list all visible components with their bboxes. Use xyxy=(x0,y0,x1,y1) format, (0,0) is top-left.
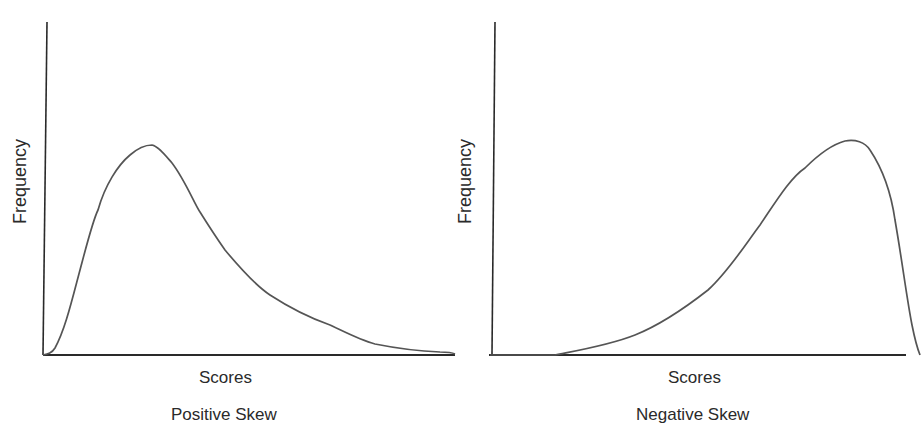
y-axis-label: Frequency xyxy=(10,139,31,224)
chart-caption: Negative Skew xyxy=(636,405,749,425)
y-axis xyxy=(492,22,495,355)
x-axis-label: Scores xyxy=(199,368,252,388)
chart-caption: Positive Skew xyxy=(171,405,277,425)
x-axis-label: Scores xyxy=(668,368,721,388)
negative-skew-panel: Frequency Scores Negative Skew xyxy=(460,0,923,439)
y-axis-label: Frequency xyxy=(455,139,476,224)
distribution-curve xyxy=(490,140,920,355)
positive-skew-panel: Frequency Scores Positive Skew xyxy=(0,0,460,439)
distribution-curve xyxy=(43,145,455,355)
y-axis xyxy=(43,22,47,355)
